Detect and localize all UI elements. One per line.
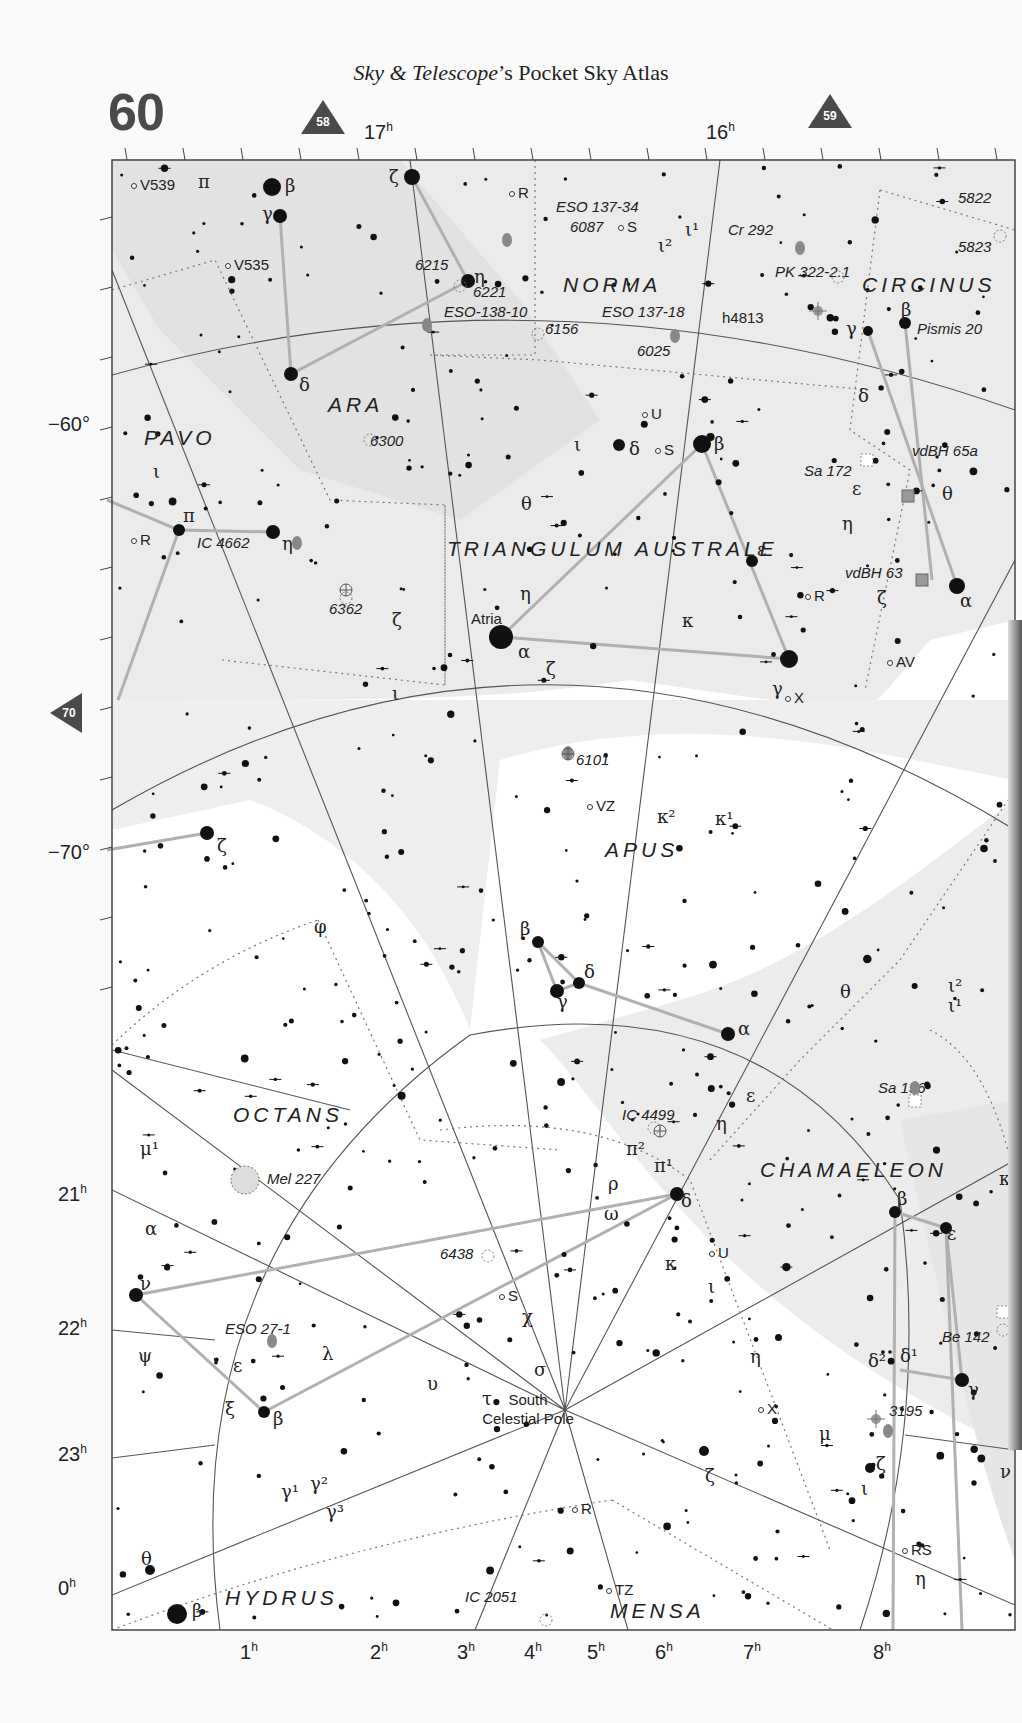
bayer-letter-label: ι <box>708 1276 715 1297</box>
star <box>400 587 403 590</box>
bayer-letter-label: ζ <box>705 1465 715 1486</box>
star <box>584 913 589 918</box>
deep-sky-label: 6438 <box>440 1245 474 1262</box>
star <box>306 274 309 277</box>
variable-star-icon <box>903 1549 908 1554</box>
star <box>342 888 346 892</box>
star <box>786 1223 791 1228</box>
star <box>220 786 223 789</box>
bayer-letter-label: π² <box>626 1138 645 1159</box>
star <box>675 1190 678 1193</box>
bayer-letter-label: η <box>716 1113 727 1134</box>
star <box>201 783 208 790</box>
bayer-letter-label: π <box>198 171 210 192</box>
star <box>741 1199 744 1202</box>
star <box>683 964 687 968</box>
star <box>636 516 640 520</box>
bayer-letter-label: γ <box>968 1379 979 1400</box>
bayer-letter-label: ε <box>746 1085 755 1106</box>
star <box>595 1196 599 1200</box>
star <box>709 1299 713 1303</box>
star <box>742 1590 746 1594</box>
constellation-label: ARA <box>326 393 383 416</box>
deep-sky-label: ESO-138-10 <box>444 303 528 320</box>
bayer-letter-label: γ¹ <box>281 1481 299 1502</box>
star <box>827 314 834 321</box>
star <box>738 615 743 620</box>
constellation-label: TRIANGULUM AUSTRALE <box>447 537 778 560</box>
star <box>673 993 677 997</box>
star <box>391 794 394 797</box>
star <box>716 479 722 485</box>
star <box>458 474 461 477</box>
star <box>841 790 844 793</box>
star <box>686 1521 689 1524</box>
bayer-letter-label: ε <box>852 478 861 499</box>
star <box>473 739 476 742</box>
star-chart[interactable]: NORMACIRCINUSARAPAVOTRIANGULUM AUSTRALEA… <box>0 0 1022 1723</box>
star <box>596 1458 599 1461</box>
star <box>144 415 150 421</box>
tick-mark <box>589 148 591 160</box>
star <box>849 1497 856 1504</box>
star <box>575 879 578 882</box>
star <box>358 747 361 750</box>
star <box>378 1053 381 1056</box>
star <box>120 1571 126 1577</box>
bayer-letter-label: δ <box>299 374 310 395</box>
star <box>566 1168 571 1173</box>
bayer-letter-label: γ <box>557 991 568 1012</box>
star <box>653 1349 660 1356</box>
star <box>676 1312 680 1316</box>
star <box>775 1334 782 1341</box>
star <box>257 1242 261 1246</box>
star <box>663 1523 671 1531</box>
bayer-letter-label: θ <box>521 493 532 514</box>
star <box>257 598 260 601</box>
star <box>479 888 484 893</box>
star <box>977 1455 985 1463</box>
deep-sky-label: Pismis 20 <box>917 320 983 337</box>
star <box>972 694 975 697</box>
bayer-letter-label: β <box>897 1188 907 1209</box>
star <box>198 1461 202 1465</box>
star <box>118 587 121 590</box>
constellation-label: OCTANS <box>233 1103 343 1126</box>
star <box>927 521 930 524</box>
variable-star-label: V539 <box>140 176 175 193</box>
asterism-icon <box>909 1095 921 1107</box>
star <box>544 1123 549 1128</box>
star <box>635 1551 638 1554</box>
tick-mark <box>125 148 127 160</box>
bayer-letter-label: π <box>183 505 195 526</box>
star <box>762 166 766 170</box>
star <box>196 250 199 253</box>
bayer-letter-label: η <box>915 1568 926 1589</box>
variable-star-label: V535 <box>234 256 269 273</box>
star <box>699 1446 709 1456</box>
star <box>503 1490 508 1495</box>
deep-sky-label: 5822 <box>958 189 992 206</box>
bayer-letter-label: β <box>192 1600 202 1621</box>
bayer-letter-label: η <box>520 583 531 604</box>
star <box>257 1474 261 1478</box>
star <box>439 1119 442 1122</box>
star <box>377 1431 381 1435</box>
star <box>863 955 872 964</box>
star <box>395 1001 399 1005</box>
star <box>388 1160 391 1163</box>
named-star-label: h4813 <box>722 309 764 326</box>
star <box>976 310 981 315</box>
variable-star-label: U <box>651 405 662 422</box>
star <box>751 991 758 998</box>
star <box>869 1432 874 1437</box>
star <box>204 507 208 511</box>
axis-label: 17h <box>364 120 393 144</box>
star <box>283 1023 287 1027</box>
star <box>561 520 567 526</box>
star <box>492 918 495 921</box>
star <box>554 1273 559 1278</box>
variable-star-icon <box>786 697 791 702</box>
deep-sky-label: Be 142 <box>942 1328 990 1345</box>
bayer-letter-label: υ <box>427 1373 438 1394</box>
